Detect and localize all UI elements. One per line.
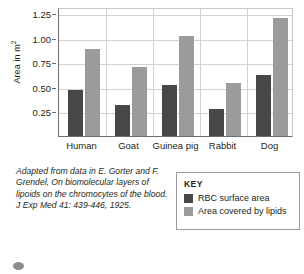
bar [273,18,288,136]
y-axis-tick-mark [52,39,56,40]
bar [256,75,271,136]
y-axis-tick-label: 0.50 [33,82,52,93]
bar-group [153,9,200,136]
bar [115,105,130,136]
y-axis-tick-mark [52,14,56,15]
x-axis-tick-label: Human [66,140,97,151]
plot-area [58,8,293,137]
chart-legend: KEY RBC surface areaArea covered by lipi… [176,172,300,230]
x-axis-tick-label: Goat [118,140,139,151]
x-axis-tick-label: Dog [261,140,278,151]
legend-title: KEY [184,179,293,189]
y-axis-tick-label: 1.00 [33,33,52,44]
y-axis-tick-label: 0.75 [33,58,52,69]
bar [85,49,100,136]
y-axis-tick-label: 0.25 [33,107,52,118]
bar-group [59,9,106,136]
x-axis-tick-label: Rabbit [209,140,236,151]
y-axis-ticks: 0.250.500.751.001.25 [12,8,56,137]
decorative-dot-icon [13,262,24,270]
bar [179,36,194,136]
bar [132,67,147,136]
y-axis-tick-mark [52,112,56,113]
legend-item: RBC surface area [184,193,293,203]
legend-swatch-icon [184,194,193,203]
bar [226,83,241,136]
bar-group [247,9,294,136]
bar [162,85,177,136]
legend-swatch-icon [184,207,193,216]
bar-group [106,9,153,136]
y-axis-tick-mark [52,88,56,89]
x-axis-tick-label: Guinea pig [153,140,199,151]
bar-chart: Area in m2 0.250.500.751.001.25 HumanGoa… [0,0,304,160]
figure: Area in m2 0.250.500.751.001.25 HumanGoa… [0,0,304,274]
legend-item-label: RBC surface area [198,193,270,203]
legend-item: Area covered by lipids [184,206,293,216]
legend-item-label: Area covered by lipids [198,206,287,216]
y-axis-tick-label: 1.25 [33,9,52,20]
bar [209,109,224,136]
bar-group [200,9,247,136]
legend-entries: RBC surface areaArea covered by lipids [184,193,293,216]
x-axis-labels: HumanGoatGuinea pigRabbitDog [58,140,293,156]
figure-caption: Adapted from data in E. Gorter and F. Gr… [16,166,168,212]
y-axis-tick-mark [52,63,56,64]
bar [68,90,83,136]
